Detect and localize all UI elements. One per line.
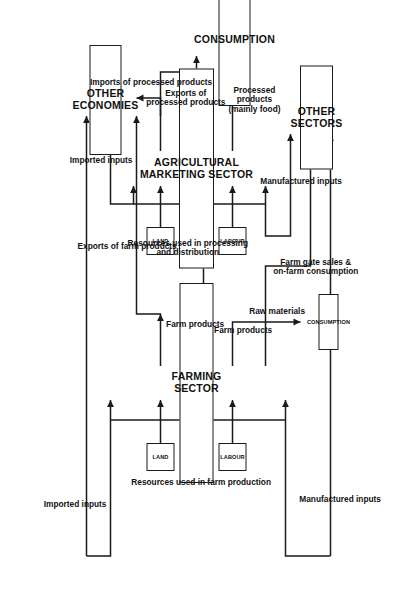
label-exports-of-processed-products: Exports of processed products (146, 89, 225, 108)
box-consumption-label: CONSUMPTION (194, 34, 275, 46)
label-resources-used-in-processing: Resources used in processing and distrib… (127, 239, 247, 258)
box-other-economies[interactable]: OTHER ECONOMIES (89, 45, 121, 155)
label-farm-products-to-consumption: Farm products (214, 326, 272, 335)
box-other-sectors[interactable]: OTHER SECTORS (300, 66, 333, 170)
box-labour-farming-label: LABOUR (220, 454, 245, 460)
box-other-economies-label: OTHER ECONOMIES (72, 88, 138, 112)
box-consumption-on-farm[interactable]: CONSUMPTION (318, 294, 338, 350)
label-imports-of-processed-products: Imports of processed products (90, 78, 212, 87)
label-imported-inputs-farm: Imported inputs (43, 500, 106, 509)
label-imported-inputs-marketing: Imported inputs (69, 156, 132, 165)
box-land-farming-label: LAND (152, 454, 168, 460)
box-farming-sector-label: FARMING SECTOR (171, 371, 221, 395)
label-raw-materials: Raw materials (249, 307, 305, 316)
box-land-farming[interactable]: LAND (146, 443, 174, 471)
box-consumption-on-farm-label: CONSUMPTION (306, 319, 349, 325)
label-manufactured-inputs-marketing: Manufactured inputs (260, 177, 342, 186)
label-manufactured-inputs-farm: Manufactured inputs (299, 495, 381, 504)
box-farming-sector[interactable]: FARMING SECTOR (179, 283, 213, 483)
box-other-sectors-label: OTHER SECTORS (290, 106, 342, 130)
label-farm-gate-sales: Farm gate sales & on-farm consumption (273, 258, 358, 277)
label-resources-used-in-farm-production: Resources used in farm production (131, 478, 271, 487)
box-labour-farming[interactable]: LABOUR (218, 443, 246, 471)
diagram-page: FARMING SECTOR AGRICULTURAL MARKETING SE… (0, 0, 413, 596)
label-processed-products: Processed products (mainly food) (228, 86, 280, 114)
box-agricultural-marketing-sector-label: AGRICULTURAL MARKETING SECTOR (139, 157, 252, 181)
diagram-canvas: FARMING SECTOR AGRICULTURAL MARKETING SE… (0, 0, 413, 596)
